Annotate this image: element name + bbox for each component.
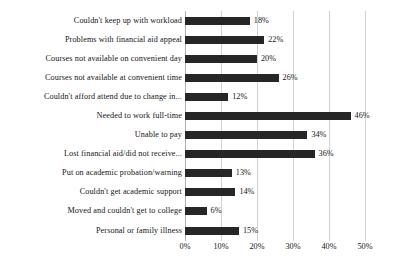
chart-row: Moved and couldn't get to college6% bbox=[0, 202, 397, 221]
category-label: Needed to work full-time bbox=[97, 112, 182, 120]
bar-track: 22% bbox=[185, 36, 365, 44]
bar bbox=[185, 169, 232, 177]
chart-row: Lost financial aid/did not receive...36% bbox=[0, 145, 397, 164]
bar-track: 14% bbox=[185, 188, 365, 196]
category-label: Couldn't afford attend due to change in.… bbox=[44, 93, 182, 101]
x-tick-label: 20% bbox=[249, 243, 264, 251]
bar bbox=[185, 93, 228, 101]
category-label: Put on academic probation/warning bbox=[62, 169, 182, 177]
bar-track: 34% bbox=[185, 131, 365, 139]
category-label: Lost financial aid/did not receive... bbox=[64, 150, 182, 158]
bar-track: 15% bbox=[185, 227, 365, 235]
category-label: Moved and couldn't get to college bbox=[67, 207, 182, 215]
bar-track: 18% bbox=[185, 17, 365, 25]
horizontal-bar-chart: Couldn't keep up with workload18%Problem… bbox=[0, 0, 397, 268]
category-label: Couldn't get academic support bbox=[80, 188, 182, 196]
x-tick-label: 10% bbox=[213, 243, 228, 251]
x-tick-label: 40% bbox=[321, 243, 336, 251]
bar-track: 12% bbox=[185, 93, 365, 101]
bar-value-label: 34% bbox=[307, 131, 326, 139]
chart-row: Couldn't keep up with workload18% bbox=[0, 11, 397, 30]
bar-value-label: 18% bbox=[250, 16, 269, 24]
bar-value-label: 6% bbox=[207, 207, 222, 215]
x-tick-label: 50% bbox=[357, 243, 372, 251]
bar bbox=[185, 112, 351, 120]
bar bbox=[185, 36, 264, 44]
bar bbox=[185, 74, 279, 82]
bar bbox=[185, 131, 307, 139]
chart-row: Problems with financial aid appeal22% bbox=[0, 30, 397, 49]
chart-row: Unable to pay34% bbox=[0, 126, 397, 145]
bar-value-label: 12% bbox=[228, 93, 247, 101]
x-tick-label: 0% bbox=[180, 243, 191, 251]
bar-track: 13% bbox=[185, 169, 365, 177]
chart-row: Courses not available at convenient time… bbox=[0, 68, 397, 87]
chart-row: Courses not available on convenient day2… bbox=[0, 49, 397, 68]
category-label: Couldn't keep up with workload bbox=[74, 16, 182, 24]
category-label: Courses not available at convenient time bbox=[45, 74, 182, 82]
chart-rows: Couldn't keep up with workload18%Problem… bbox=[0, 11, 397, 240]
bar-value-label: 36% bbox=[315, 150, 334, 158]
bar-value-label: 13% bbox=[232, 169, 251, 177]
category-label: Problems with financial aid appeal bbox=[65, 36, 182, 44]
bar bbox=[185, 227, 239, 235]
bar bbox=[185, 188, 235, 196]
bar-value-label: 14% bbox=[235, 188, 254, 196]
bar-value-label: 15% bbox=[239, 226, 258, 234]
x-tick-label: 30% bbox=[285, 243, 300, 251]
bar bbox=[185, 150, 315, 158]
bar-value-label: 22% bbox=[264, 36, 283, 44]
bar bbox=[185, 207, 207, 215]
bar-track: 26% bbox=[185, 74, 365, 82]
chart-row: Put on academic probation/warning13% bbox=[0, 164, 397, 183]
chart-row: Couldn't afford attend due to change in.… bbox=[0, 87, 397, 106]
chart-row: Couldn't get academic support14% bbox=[0, 183, 397, 202]
bar-track: 20% bbox=[185, 55, 365, 63]
bar-value-label: 20% bbox=[257, 55, 276, 63]
bar bbox=[185, 17, 250, 25]
bar-track: 6% bbox=[185, 207, 365, 215]
bar-track: 36% bbox=[185, 150, 365, 158]
bar bbox=[185, 55, 257, 63]
bar-value-label: 26% bbox=[279, 74, 298, 82]
category-label: Courses not available on convenient day bbox=[46, 55, 182, 63]
category-label: Unable to pay bbox=[135, 131, 182, 139]
category-label: Personal or family illness bbox=[96, 226, 182, 234]
bar-value-label: 46% bbox=[351, 112, 370, 120]
x-axis-tick-labels: 0%10%20%30%40%50% bbox=[0, 243, 397, 259]
bar-track: 46% bbox=[185, 112, 365, 120]
chart-row: Needed to work full-time46% bbox=[0, 106, 397, 125]
chart-row: Personal or family illness15% bbox=[0, 221, 397, 240]
